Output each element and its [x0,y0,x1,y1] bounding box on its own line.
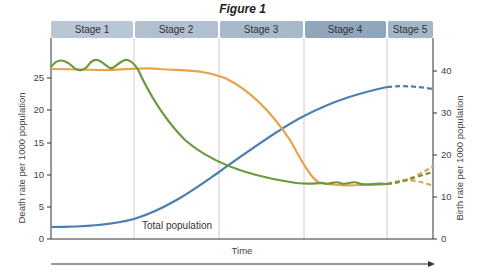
right-axis-title: Birth rate per 1000 population [454,95,465,220]
death-rate-projection [387,172,433,184]
left-tick-labels: 0 5 10 15 20 25 [33,72,44,244]
ytick: 10 [33,169,44,180]
time-arrow [51,261,435,267]
ytick: 5 [39,201,44,212]
ytick: 15 [33,137,44,148]
total-population-projection [387,86,433,89]
stage-header: Stage 1 Stage 2 Stage 3 Stage 4 Stage 5 [51,21,433,38]
right-tick-labels: 0 10 20 30 40 [441,65,452,244]
stage-2-label: Stage 2 [159,24,194,35]
demographic-transition-chart: Stage 1 Stage 2 Stage 3 Stage 4 Stage 5 … [0,0,485,272]
birth-rate-projection-alt [387,180,433,186]
left-axis-title: Death rate per 1000 population [16,93,27,224]
x-axis-title: Time [232,245,253,256]
axes [47,38,437,239]
y2tick: 0 [441,233,446,244]
stage-4-label: Stage 4 [328,24,363,35]
stage-5-label: Stage 5 [393,24,428,35]
stage-1-label: Stage 1 [75,24,110,35]
ytick: 0 [39,233,44,244]
stage-3-label: Stage 3 [244,24,279,35]
ytick: 25 [33,72,44,83]
y2tick: 20 [441,149,452,160]
y2tick: 40 [441,65,452,76]
y2tick: 30 [441,107,452,118]
total-population-annotation: Total population [142,220,212,231]
y2tick: 10 [441,191,452,202]
ytick: 20 [33,104,44,115]
stage-dividers [134,38,387,239]
